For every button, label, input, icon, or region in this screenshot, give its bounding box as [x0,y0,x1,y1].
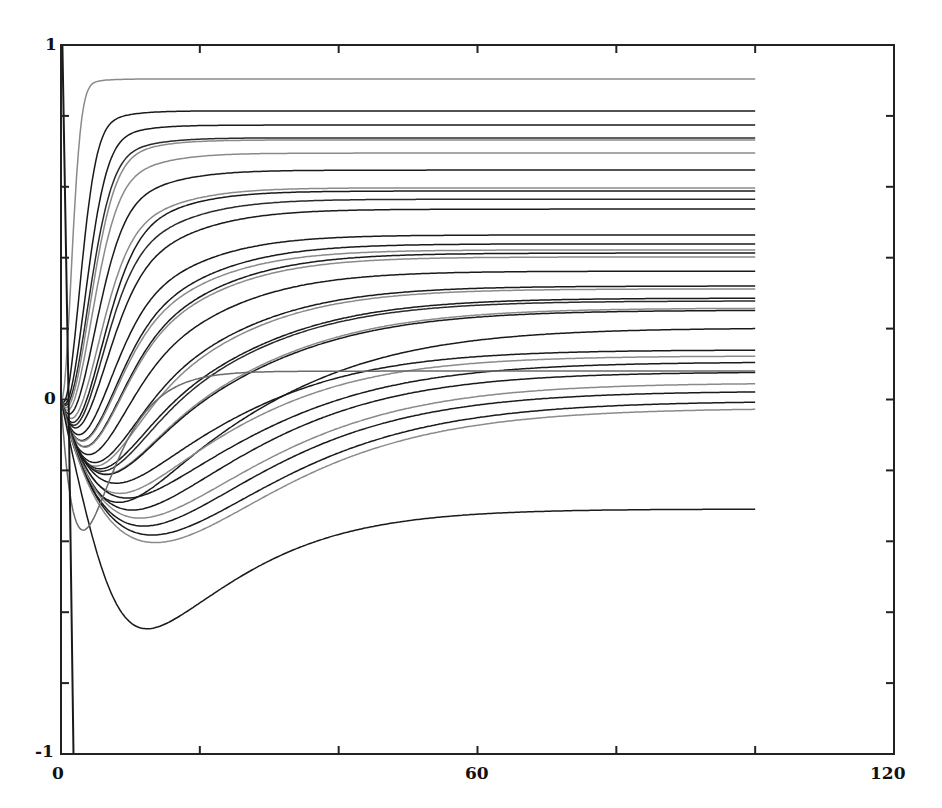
y-tick-label-top: 1 [45,36,57,53]
series-line-s26 [61,356,755,493]
x-tick-label-mid: 60 [465,765,489,782]
axis-ticks [61,45,894,754]
plot-frame [61,45,894,754]
series-line-s3 [61,125,755,404]
series-line-s9 [61,191,755,422]
x-tick-label-end: 120 [870,765,906,782]
series-line-s14 [61,250,755,441]
line-chart [0,0,942,808]
series-line-s31 [61,400,755,536]
series-lines [61,45,755,754]
y-tick-label-zero: 0 [44,390,56,407]
series-line-s34 [61,371,755,530]
x-tick-label-start: 0 [52,765,64,782]
series-line-s11 [61,209,755,428]
y-tick-label-bottom: -1 [35,743,54,760]
